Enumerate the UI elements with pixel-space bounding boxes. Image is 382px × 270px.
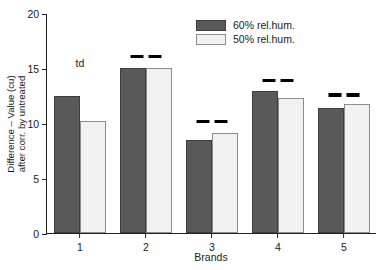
y-axis-tick-mark	[42, 69, 47, 70]
x-axis-tick-mark	[80, 233, 81, 238]
significance-dash	[329, 93, 342, 96]
plot-area: 05101520 12345 td	[46, 14, 376, 234]
x-axis-tick: 4	[275, 233, 281, 253]
bar	[120, 68, 146, 233]
significance-dash	[215, 120, 228, 123]
x-axis-tick-label: 5	[341, 242, 347, 253]
bar	[54, 96, 80, 234]
legend-swatch	[196, 20, 226, 31]
bar	[318, 108, 344, 233]
bar	[80, 121, 106, 233]
bar	[278, 98, 304, 233]
y-axis-tick-label: 5	[33, 173, 39, 184]
y-axis-title-line2: after corr. by untreated	[16, 76, 27, 173]
x-axis-tick-mark	[344, 233, 345, 238]
legend-label: 60% rel.hum.	[233, 20, 295, 31]
bar	[186, 140, 212, 234]
x-axis-tick-mark	[212, 233, 213, 238]
x-axis-tick-label: 2	[143, 242, 149, 253]
y-axis-tick-mark	[42, 124, 47, 125]
y-axis-title: Difference – Value (cu) after corr. by u…	[2, 14, 30, 234]
bar	[344, 104, 370, 233]
bar	[252, 91, 278, 233]
bar-chart: 05101520 12345 td Difference – Value (cu…	[0, 0, 382, 270]
x-axis-tick-mark	[146, 233, 147, 238]
x-axis-tick: 5	[341, 233, 347, 253]
legend-swatch	[196, 34, 226, 45]
chart-annotation: td	[76, 58, 85, 69]
legend-label: 50% rel.hum.	[233, 34, 295, 45]
legend-item: 50% rel.hum.	[196, 34, 295, 45]
y-axis-tick-label: 0	[33, 228, 39, 239]
y-axis-title-line1: Difference – Value (cu)	[5, 75, 16, 172]
significance-dash	[347, 93, 360, 96]
significance-dash	[131, 55, 144, 58]
significance-dash	[197, 120, 210, 123]
y-axis-tick-mark	[42, 179, 47, 180]
legend-item: 60% rel.hum.	[196, 20, 295, 31]
x-axis-tick-label: 1	[77, 242, 83, 253]
x-axis-tick: 1	[77, 233, 83, 253]
bar	[212, 133, 238, 233]
x-axis-tick: 2	[143, 233, 149, 253]
y-axis-tick-mark	[42, 14, 47, 15]
significance-dash	[263, 79, 276, 82]
y-axis-tick-mark	[42, 234, 47, 235]
x-axis-tick: 3	[209, 233, 215, 253]
bar	[146, 68, 172, 233]
x-axis-tick-mark	[278, 233, 279, 238]
x-axis-title: Brands	[46, 252, 376, 263]
x-axis-tick-label: 4	[275, 242, 281, 253]
significance-dash	[149, 55, 162, 58]
legend: 60% rel.hum.50% rel.hum.	[196, 20, 295, 45]
significance-dash	[281, 79, 294, 82]
